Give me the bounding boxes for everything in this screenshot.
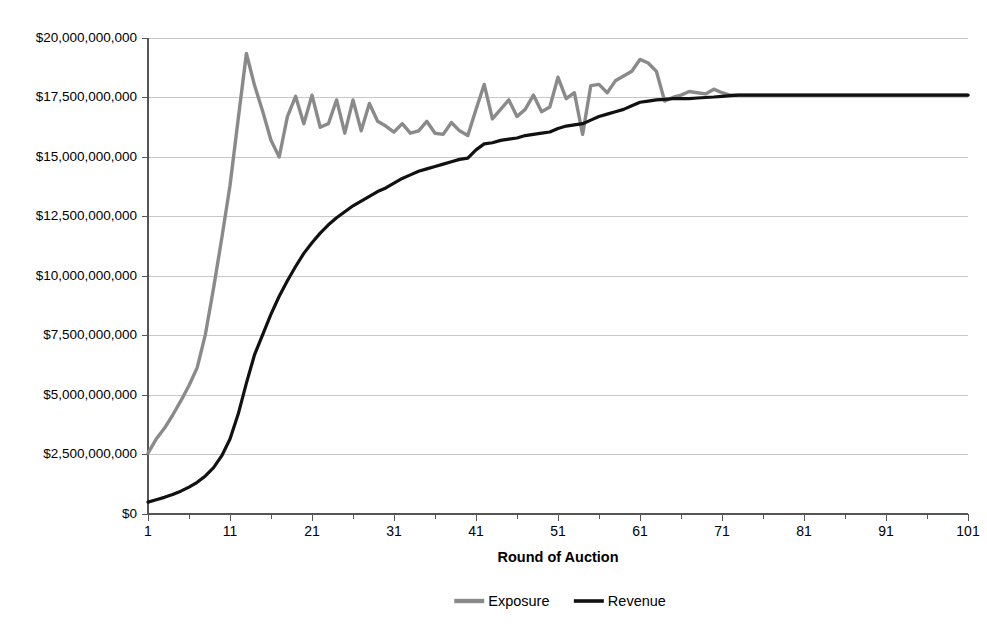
x-axis-tick-label: 41 <box>468 523 484 539</box>
x-axis-tick-label: 61 <box>632 523 648 539</box>
x-axis-tick-label: 21 <box>304 523 320 539</box>
legend-label-exposure: Exposure <box>488 593 549 609</box>
y-axis-tick-label: $20,000,000,000 <box>36 30 137 45</box>
y-axis-tick-label: $12,500,000,000 <box>36 208 137 223</box>
x-axis-tick-label: 71 <box>714 523 730 539</box>
chart-container: $20,000,000,000$17,500,000,000$15,000,00… <box>0 0 987 639</box>
y-axis-tick-label: $5,000,000,000 <box>43 387 137 402</box>
y-axis-tick-labels: $20,000,000,000$17,500,000,000$15,000,00… <box>36 30 137 521</box>
x-axis-tick-label: 11 <box>223 523 238 539</box>
y-axis-tick-label: $10,000,000,000 <box>36 268 137 283</box>
x-axis-tick-label: 51 <box>550 523 566 539</box>
y-axis-tick-label: $7,500,000,000 <box>43 327 137 342</box>
x-axis-tick-label: 101 <box>956 523 980 539</box>
line-chart: $20,000,000,000$17,500,000,000$15,000,00… <box>0 0 987 639</box>
y-axis-tick-label: $2,500,000,000 <box>43 446 137 461</box>
y-axis-tick-label: $17,500,000,000 <box>36 89 137 104</box>
x-axis-tick-label: 31 <box>386 523 402 539</box>
x-axis-tick-label: 81 <box>796 523 812 539</box>
legend-label-revenue: Revenue <box>608 593 666 609</box>
y-axis-tick-label: $15,000,000,000 <box>36 149 137 164</box>
x-axis-tick-label: 1 <box>144 523 152 539</box>
x-axis-tick-label: 91 <box>878 523 894 539</box>
x-axis-title: Round of Auction <box>497 549 618 565</box>
y-axis-tick-label: $0 <box>122 506 137 521</box>
